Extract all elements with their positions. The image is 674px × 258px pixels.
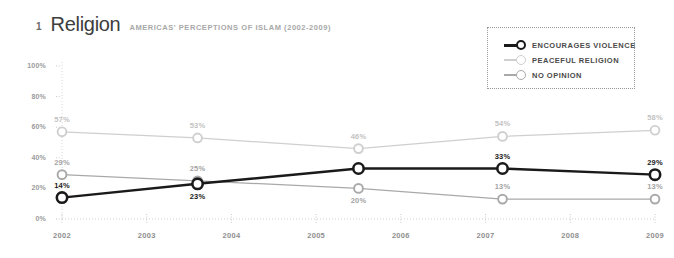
chart-canvas: [0, 0, 674, 258]
data-point-marker[interactable]: [354, 144, 363, 153]
x-axis-tick-label: 2007: [466, 231, 506, 240]
x-axis-tick-label: 2002: [42, 231, 82, 240]
data-point-marker[interactable]: [58, 127, 67, 136]
data-point-label: 13%: [638, 182, 672, 191]
data-point-marker[interactable]: [651, 195, 660, 204]
data-point-marker[interactable]: [58, 170, 67, 179]
data-point-marker[interactable]: [193, 134, 202, 143]
data-point-label: 33%: [486, 152, 520, 161]
data-point-label: 54%: [486, 119, 520, 128]
data-point-marker[interactable]: [57, 192, 67, 202]
data-point-label: 46%: [342, 132, 376, 141]
x-axis-tick-label: 2004: [211, 231, 251, 240]
data-point-label: 23%: [181, 192, 215, 201]
data-point-marker[interactable]: [353, 163, 363, 173]
y-axis-tick-label: 0%: [18, 215, 46, 222]
data-point-marker[interactable]: [498, 132, 507, 141]
y-axis-tick-label: 40%: [18, 154, 46, 161]
data-point-label: 25%: [181, 164, 215, 173]
data-point-label: 53%: [181, 121, 215, 130]
data-point-marker[interactable]: [497, 163, 507, 173]
line-chart: 0%20%40%60%80%100%2002200320042005200620…: [0, 0, 674, 258]
y-axis-tick-label: 60%: [18, 123, 46, 130]
data-point-label: 29%: [638, 158, 672, 167]
y-axis-tick-label: 80%: [18, 93, 46, 100]
x-axis-tick-label: 2006: [381, 231, 421, 240]
data-point-label: 58%: [638, 113, 672, 122]
data-point-marker[interactable]: [354, 184, 363, 193]
x-axis-tick-label: 2003: [127, 231, 167, 240]
y-axis-tick-label: 20%: [18, 184, 46, 191]
data-point-label: 14%: [45, 181, 79, 190]
data-point-label: 29%: [45, 158, 79, 167]
y-axis-tick-label: 100%: [18, 62, 46, 69]
x-axis-tick-label: 2005: [296, 231, 336, 240]
x-axis-tick-label: 2008: [550, 231, 590, 240]
data-point-label: 13%: [486, 182, 520, 191]
data-point-marker[interactable]: [651, 126, 660, 135]
data-point-label: 57%: [45, 115, 79, 124]
data-point-marker[interactable]: [498, 195, 507, 204]
data-point-marker[interactable]: [650, 169, 660, 179]
data-point-label: 20%: [342, 196, 376, 205]
data-point-marker[interactable]: [192, 179, 202, 189]
x-axis-tick-label: 2009: [635, 231, 674, 240]
